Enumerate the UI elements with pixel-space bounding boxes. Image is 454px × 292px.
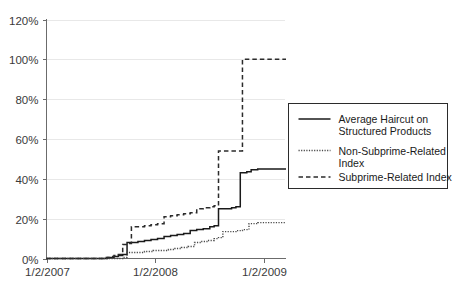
x-axis-tick-labels: 1/2/20071/2/20081/2/2009	[25, 266, 287, 278]
x-tick-label: 1/2/2007	[25, 266, 70, 278]
y-tick-label: 100%	[9, 54, 38, 66]
gridlines-group	[47, 21, 286, 220]
series-line	[47, 169, 287, 259]
y-axis-tick-labels: 120%100%80%60%40%20%0%	[9, 15, 38, 266]
y-tick-label: 120%	[9, 15, 38, 27]
x-tick-label: 1/2/2009	[242, 266, 287, 278]
y-tick-label: 0%	[22, 254, 39, 266]
x-tick-label: 1/2/2008	[133, 266, 178, 278]
legend-item-label-line2: Structured Products	[339, 125, 432, 137]
legend-item-label-line2: Index	[339, 157, 365, 169]
legend-item-label: Non-Subprime-Related	[339, 145, 447, 157]
y-tick-label: 60%	[15, 134, 38, 146]
chart-legend: Average Haircut onStructured ProductsNon…	[289, 104, 453, 189]
legend-item-label: Subprime-Related Index	[339, 171, 453, 183]
y-tick-label: 80%	[15, 94, 38, 106]
data-series-group	[47, 59, 287, 258]
series-line	[47, 223, 287, 259]
chart-figure: 120%100%80%60%40%20%0% 1/2/20071/2/20081…	[0, 0, 454, 292]
legend-item-label: Average Haircut on	[339, 113, 429, 125]
y-tick-label: 40%	[15, 174, 38, 186]
y-tick-label: 20%	[15, 214, 38, 226]
axis-ticks-group	[43, 21, 265, 263]
series-line	[47, 59, 287, 258]
line-chart: 120%100%80%60%40%20%0% 1/2/20071/2/20081…	[0, 0, 454, 292]
